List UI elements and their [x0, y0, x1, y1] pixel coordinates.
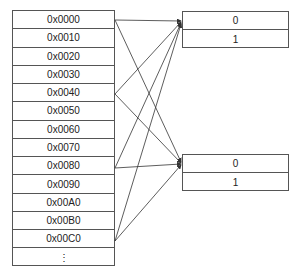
arrow-0x0040-b [115, 94, 181, 163]
address-row: 0x0000 [13, 11, 114, 29]
target-row: 0 [183, 155, 288, 173]
address-row: 0x00A0 [13, 194, 114, 212]
address-row: 0x0010 [13, 29, 114, 47]
address-row: 0x0060 [13, 121, 114, 139]
target-row: 0 [183, 12, 288, 30]
target-row: 1 [183, 30, 288, 48]
arrow-0x0000-b [115, 20, 181, 162]
address-row: 0x0050 [13, 102, 114, 120]
target-table-b: 0 1 [182, 154, 289, 191]
address-table: 0x0000 0x0010 0x0020 0x0030 0x0040 0x005… [12, 10, 115, 266]
address-row: 0x0040 [13, 84, 114, 102]
target-row: 1 [183, 173, 288, 191]
arrow-0x00C0-a [115, 24, 181, 241]
address-row: 0x0070 [13, 139, 114, 157]
address-row: 0x00B0 [13, 212, 114, 230]
arrow-0x0080-b [115, 164, 181, 168]
target-table-a: 0 1 [182, 11, 289, 48]
arrow-0x00C0-b [115, 165, 181, 241]
address-row: 0x0030 [13, 66, 114, 84]
address-row: 0x0080 [13, 157, 114, 175]
arrow-0x0080-a [115, 23, 181, 168]
arrow-0x0040-a [115, 22, 181, 94]
arrow-0x0000-a [115, 20, 181, 21]
address-row: 0x0090 [13, 175, 114, 193]
address-row: 0x00C0 [13, 230, 114, 248]
address-row: 0x0020 [13, 48, 114, 66]
ellipsis-row: ⋮ [13, 248, 114, 266]
faded-caption [100, 268, 230, 274]
